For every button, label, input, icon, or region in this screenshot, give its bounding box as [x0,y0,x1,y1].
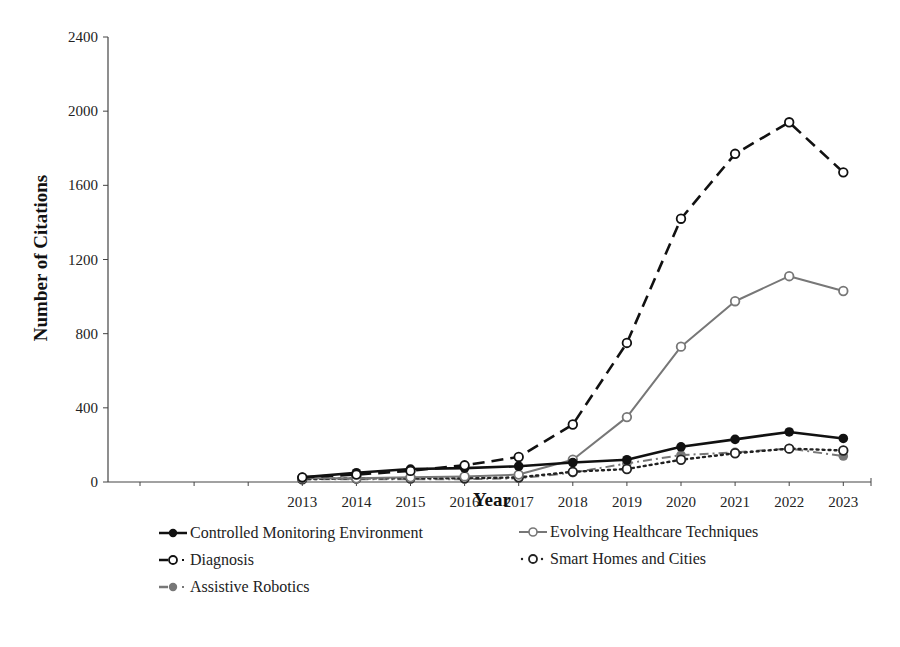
data-point-marker [460,461,469,470]
legend-item-smart-homes: Smart Homes and Cities [518,550,706,568]
x-axis-title: Year [473,489,512,510]
data-point-marker [514,453,523,462]
data-point-marker [677,214,686,223]
data-point-marker [569,420,578,429]
y-tick-label: 0 [91,474,99,490]
y-tick-label: 400 [76,400,99,416]
y-tick-label: 2400 [68,29,98,45]
data-point-marker [514,470,523,479]
data-point-marker [677,455,686,464]
filled-circle-dashdot-line-icon [158,581,188,593]
y-tick-label: 800 [76,326,99,342]
x-tick-label: 2023 [828,494,858,510]
series-diagnosis [298,118,848,482]
data-point-marker [731,150,740,159]
series-layer [298,118,849,484]
x-tick-label: 2015 [396,494,426,510]
data-point-marker [785,444,794,453]
legend-item-diagnosis: Diagnosis [158,551,254,569]
open-circle-dashed-line-icon [158,554,188,566]
legend-label: Smart Homes and Cities [550,550,706,568]
open-circle-dotted-line-icon [518,553,548,565]
x-tick-label: 2021 [720,494,750,510]
data-point-marker [622,455,632,465]
legend-label: Diagnosis [190,551,254,569]
data-point-marker [569,468,578,477]
data-point-marker [623,465,632,474]
data-point-marker [676,442,686,452]
data-point-marker [352,470,361,479]
legend-label: Assistive Robotics [190,578,310,596]
data-point-marker [623,413,632,422]
data-point-marker [623,339,632,348]
line-chart: 04008001200160020002400 2013201420152016… [0,0,900,647]
data-point-marker [839,168,848,177]
data-point-marker [677,342,686,351]
data-point-marker [785,118,794,127]
y-tick-label: 1200 [68,252,98,268]
data-point-marker [406,467,415,476]
data-point-marker [568,458,578,468]
y-tick-label: 1600 [68,177,98,193]
data-point-marker [785,272,794,281]
y-tick-label: 2000 [68,103,98,119]
open-circle-solid-line-icon [518,526,548,538]
data-point-marker [460,472,469,481]
legend-item-assistive-robotics: Assistive Robotics [158,578,310,596]
legend-item-evolving-healthcare: Evolving Healthcare Techniques [518,523,758,541]
data-point-marker [730,435,740,445]
x-tick-label: 2019 [612,494,642,510]
x-tick-label: 2022 [774,494,804,510]
y-axis-title: Number of Citations [30,175,51,341]
data-point-marker [839,434,849,444]
data-point-marker [731,449,740,458]
legend-label: Evolving Healthcare Techniques [550,523,758,541]
legend-label: Controlled Monitoring Environment [190,524,423,542]
x-tick-label: 2020 [666,494,696,510]
data-point-marker [514,461,524,471]
data-point-marker [839,287,848,296]
data-point-marker [839,446,848,455]
legend-item-controlled-monitoring: Controlled Monitoring Environment [158,524,423,542]
data-point-marker [731,297,740,306]
x-tick-label: 2018 [558,494,588,510]
y-axis: 04008001200160020002400 [68,29,108,490]
filled-circle-solid-line-icon [158,527,188,539]
x-tick-label: 2013 [287,494,317,510]
data-point-marker [298,473,307,482]
x-tick-label: 2014 [341,494,372,510]
data-point-marker [784,427,794,437]
